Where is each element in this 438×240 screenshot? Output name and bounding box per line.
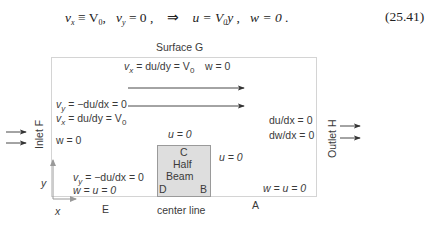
inlet-bc-vy: vy = −du/dx = 0 xyxy=(56,98,127,113)
point-a-label: A xyxy=(252,199,259,211)
top-bc-w: w = 0 xyxy=(205,60,230,72)
beam-top-bc: u = 0 xyxy=(168,128,192,140)
outlet-bc-dwdx: dw/dx = 0 xyxy=(269,129,314,141)
bottom-right-bc: w = u = 0 xyxy=(263,182,306,194)
center-line-label: center line xyxy=(157,204,205,216)
inlet-bc-vx: vx = du/dy = V0 xyxy=(56,112,126,127)
outlet-bc-dudx: du/dx = 0 xyxy=(269,114,313,126)
beam-right-bc: u = 0 xyxy=(219,151,243,163)
y-axis-label: y xyxy=(41,177,46,189)
beam-corner-d: D xyxy=(159,183,167,195)
inlet-bc-w: w = 0 xyxy=(56,134,81,146)
beam-title-half: Half xyxy=(173,158,192,170)
outlet-h-label: Outlet H xyxy=(326,119,338,158)
inlet-f-label: Inlet F xyxy=(33,120,45,149)
beam-corner-b: B xyxy=(200,183,207,195)
bottom-left-bc-wu: w = u = 0 xyxy=(73,184,116,196)
point-e-label: E xyxy=(102,203,109,215)
top-bc-vx: vx = du/dy = V0 xyxy=(124,60,194,75)
x-axis-label: x xyxy=(55,205,60,217)
beam-title-beam: Beam xyxy=(166,170,193,182)
beam-corner-c: C xyxy=(180,146,188,158)
surface-g-label: Surface G xyxy=(156,41,203,53)
